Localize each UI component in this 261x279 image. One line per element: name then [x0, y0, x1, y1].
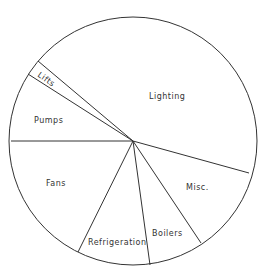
slice-label-refrigeration: Refrigeration	[88, 238, 146, 247]
pie-chart: Lighting Misc. Boilers Refrigeration Fan…	[0, 0, 261, 279]
slice-label-misc: Misc.	[186, 183, 209, 192]
slice-label-lighting: Lighting	[149, 92, 185, 101]
slice-label-boilers: Boilers	[152, 229, 183, 238]
slice-label-fans: Fans	[46, 179, 66, 188]
slice-label-pumps: Pumps	[34, 116, 63, 125]
